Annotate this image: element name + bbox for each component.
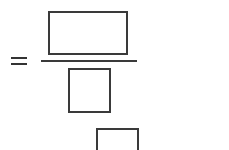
answer-box[interactable] xyxy=(96,128,139,150)
equals-bottom-line xyxy=(11,63,27,65)
fraction-bar xyxy=(41,60,137,62)
numerator-box[interactable] xyxy=(48,11,128,55)
denominator-box[interactable] xyxy=(68,68,111,113)
equals-top-line xyxy=(11,57,27,59)
